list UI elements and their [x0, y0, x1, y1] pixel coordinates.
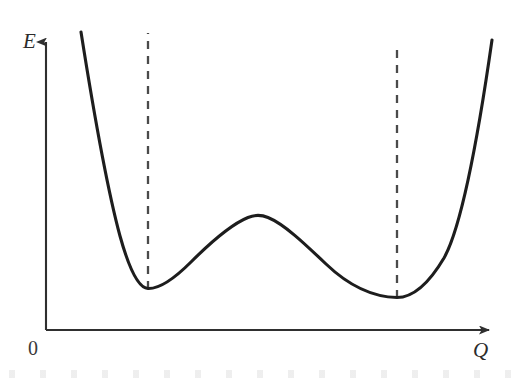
x-axis-label: Q [473, 340, 488, 361]
energy-curve [81, 32, 492, 298]
y-axis-label: E [23, 31, 36, 52]
double-well-plot [0, 0, 520, 378]
figure-root: E Q 0 [0, 0, 520, 378]
origin-label: 0 [28, 338, 38, 358]
